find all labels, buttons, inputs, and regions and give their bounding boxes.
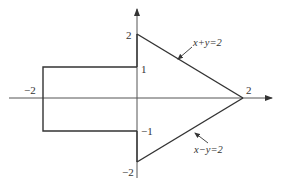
label-y-neg-1: −1 [141,125,153,137]
label-x-neg-2: −2 [24,84,36,96]
annotation-arrow-upper [178,47,192,59]
label-y-1: 1 [141,63,147,75]
label-x-2: 2 [246,84,252,96]
annotation-arrow-lower [195,133,208,143]
label-y-neg-2: −2 [122,166,134,178]
line-x-plus-y-2 [137,34,243,98]
region-boundary [43,67,137,131]
equation-upper: x+y=2 [192,37,222,48]
region-diagram: 2 1 −1 −2 −2 2 x+y=2 x−y=2 [0,0,283,188]
line-x-minus-y-2 [137,98,243,162]
label-y-2: 2 [126,29,132,41]
equation-lower: x−y=2 [193,144,223,155]
